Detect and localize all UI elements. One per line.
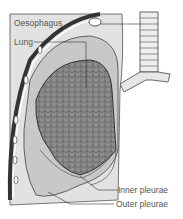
label-inner-pleurae: Inner pleurae [118,186,168,195]
label-lung: Lung [14,38,33,47]
oesophagus-shape [89,18,101,26]
label-oesophagus: Oesophagus [14,19,62,28]
label-outer-pleurae: Outer pleurae [116,200,168,209]
